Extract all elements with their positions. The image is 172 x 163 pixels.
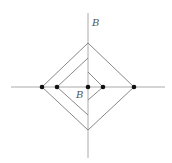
point-dot	[132, 85, 137, 90]
point-dot	[40, 85, 45, 90]
point-dot	[86, 85, 91, 90]
point-dot	[101, 85, 106, 90]
inner-chevron	[88, 72, 103, 100]
point-dot	[55, 85, 60, 90]
inner-label-b: B	[75, 89, 83, 100]
diagram-canvas: B B	[0, 0, 172, 163]
outer-label-b: B	[91, 17, 99, 28]
